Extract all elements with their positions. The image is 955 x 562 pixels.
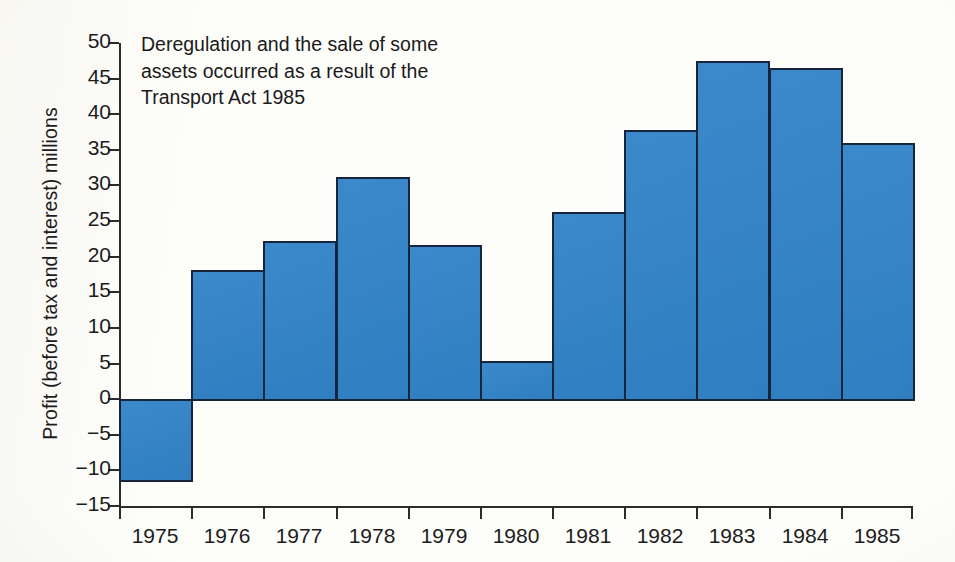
x-tick <box>769 508 771 519</box>
x-tick-label: 1982 <box>624 524 696 548</box>
annotation-line-3: Transport Act 1985 <box>141 84 471 111</box>
y-tick-label: 30 <box>61 171 111 195</box>
x-axis-line <box>119 506 913 508</box>
bar-1975 <box>119 399 193 481</box>
x-tick-label: 1985 <box>841 524 913 548</box>
x-tick-label: 1981 <box>552 524 624 548</box>
x-tick <box>336 508 338 519</box>
y-tick-label: 20 <box>61 243 111 267</box>
bar-1977 <box>263 241 337 401</box>
y-tick-label: 40 <box>61 100 111 124</box>
y-tick-label: 10 <box>61 314 111 338</box>
bar-1982 <box>624 130 698 401</box>
annotation-line-2: assets occurred as a result of the <box>141 58 471 85</box>
bar-1981 <box>552 212 626 401</box>
chart-annotation: Deregulation and the sale of someassets … <box>141 31 471 111</box>
x-tick-label: 1977 <box>263 524 335 548</box>
plot-area: 50454035302520151050−5−10−15 19751976197… <box>119 43 913 508</box>
y-tick-label: 15 <box>61 278 111 302</box>
y-tick-label: 25 <box>61 207 111 231</box>
y-tick-label: −15 <box>61 492 111 516</box>
x-tick <box>191 508 193 519</box>
bar-1979 <box>408 245 482 402</box>
x-tick-label: 1979 <box>408 524 480 548</box>
bar-1978 <box>336 177 410 401</box>
x-tick-label: 1984 <box>769 524 841 548</box>
bar-1984 <box>769 68 843 401</box>
x-tick <box>119 508 121 519</box>
x-tick-label: 1978 <box>336 524 408 548</box>
bar-1980 <box>480 361 554 401</box>
x-tick <box>552 508 554 519</box>
x-tick <box>624 508 626 519</box>
x-tick-label: 1975 <box>119 524 191 548</box>
y-tick-label: 0 <box>61 385 111 409</box>
y-tick-label: 5 <box>61 350 111 374</box>
bar-1983 <box>696 61 770 401</box>
bar-1985 <box>841 143 915 401</box>
x-tick <box>263 508 265 519</box>
y-tick-label: −10 <box>61 456 111 480</box>
x-tick <box>911 508 913 519</box>
x-tick-label: 1980 <box>480 524 552 548</box>
x-tick <box>841 508 843 519</box>
x-tick-label: 1983 <box>696 524 768 548</box>
chart-figure: Profit (before tax and interest) million… <box>0 0 955 562</box>
y-tick-label: −5 <box>61 421 111 445</box>
x-tick <box>480 508 482 519</box>
y-axis-label: Profit (before tax and interest) million… <box>39 54 62 494</box>
x-tick <box>408 508 410 519</box>
annotation-line-1: Deregulation and the sale of some <box>141 31 471 58</box>
x-tick-label: 1976 <box>191 524 263 548</box>
y-tick-label: 50 <box>61 29 111 53</box>
y-tick-label: 35 <box>61 136 111 160</box>
x-tick <box>696 508 698 519</box>
bar-1976 <box>191 270 265 402</box>
y-tick-label: 45 <box>61 65 111 89</box>
